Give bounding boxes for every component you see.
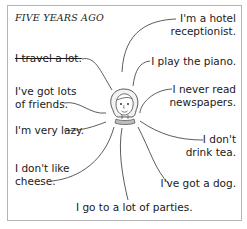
statement-lazy: I'm very lazy. bbox=[15, 124, 84, 137]
statement-parties: I go to a lot of parties. bbox=[76, 201, 192, 214]
statement-piano: I play the piano. bbox=[151, 55, 236, 68]
statement-dog: I've got a dog. bbox=[161, 177, 236, 190]
statement-hotel: I'm a hotel receptionist. bbox=[171, 12, 236, 38]
statement-tea: I don't drink tea. bbox=[186, 133, 236, 159]
statement-travel: I travel a lot. bbox=[15, 52, 82, 65]
statement-cheese: I don't like cheese. bbox=[15, 162, 70, 188]
statement-friends: I've got lots of friends. bbox=[15, 85, 76, 111]
statement-newspapers: I never read newspapers. bbox=[169, 83, 236, 109]
woman-face-icon bbox=[102, 86, 148, 130]
